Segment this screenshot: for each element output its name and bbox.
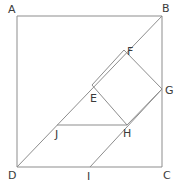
inner-square-side-HE [92, 85, 127, 125]
vertex-label-E: E [90, 93, 97, 104]
geometry-figure: A B C D E F G H I J [0, 0, 179, 188]
vertex-label-B: B [162, 3, 170, 14]
vertex-label-C: C [163, 170, 171, 181]
vertex-label-D: D [8, 170, 16, 181]
vertex-label-J: J [55, 129, 58, 140]
vertex-label-F: F [127, 46, 133, 57]
vertex-label-H: H [123, 128, 131, 139]
vertex-label-G: G [165, 85, 174, 96]
inner-square-side-EF [92, 50, 124, 85]
vertex-label-I: I [87, 171, 90, 182]
vertex-label-A: A [8, 4, 16, 15]
